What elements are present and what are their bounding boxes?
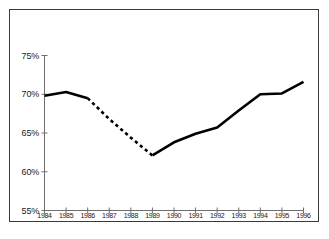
chart-axes [42, 56, 304, 214]
y-axis-tick-label: 75% [13, 51, 39, 61]
y-axis-tick-label: 65% [13, 128, 39, 138]
data-line-solid [152, 82, 303, 156]
data-line-dashed [88, 98, 153, 155]
chart-figure: 75%70%65%60%55% 198419851986198719881989… [0, 0, 329, 239]
line-chart-plot [0, 0, 329, 239]
y-axis-tick-label: 60% [13, 167, 39, 177]
x-axis-tick-label: 1996 [291, 212, 317, 220]
data-line-solid [45, 92, 88, 98]
y-axis-tick-label: 70% [13, 89, 39, 99]
chart-series [45, 82, 304, 156]
